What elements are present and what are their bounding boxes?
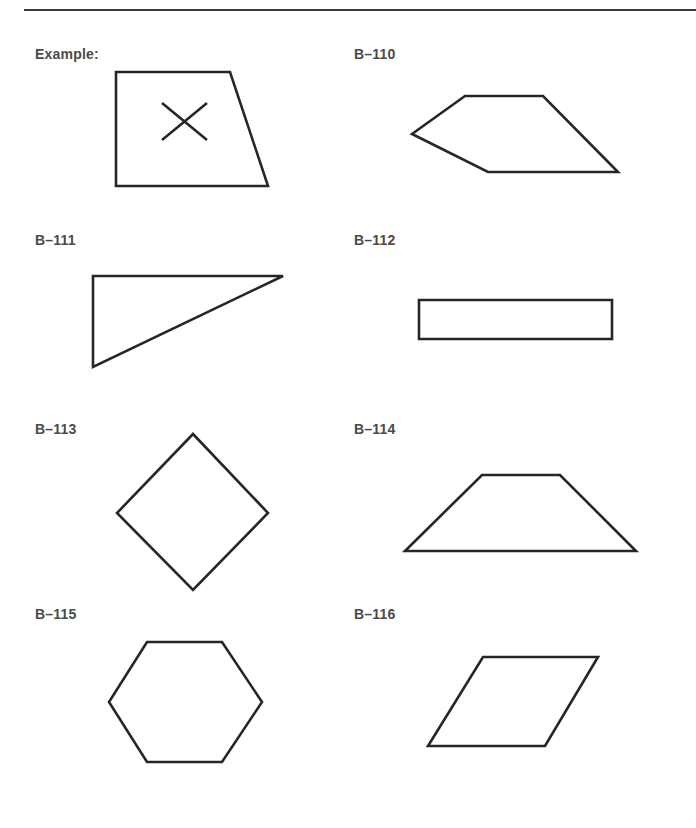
example-figure	[116, 72, 268, 186]
b-116-parallelogram-shape	[428, 657, 598, 746]
b-113-diamond-shape	[117, 434, 268, 590]
figures-canvas	[0, 0, 696, 828]
b-111-triangle-shape	[93, 276, 283, 367]
b-110-pentagon-shape	[412, 96, 618, 172]
b-112-rectangle-shape	[419, 300, 612, 339]
b-114-trapezoid-shape	[405, 475, 636, 551]
b-115-hexagon-shape	[109, 642, 262, 762]
